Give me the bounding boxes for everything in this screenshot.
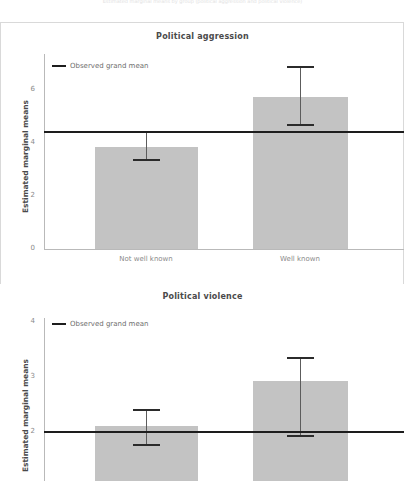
y-tick-label-4: 4 (15, 138, 35, 146)
x-tick-label-well-known: Well known (250, 255, 350, 263)
error-bar-cap-top-well-known-2 (287, 357, 314, 359)
legend-label-2: Observed grand mean (70, 320, 148, 328)
legend-label: Observed grand mean (70, 62, 148, 70)
y-axis-line-2 (44, 318, 45, 481)
y-tick-label-2-panel2: 2 (15, 427, 35, 435)
error-bar-cap-top-not-well-known-2 (133, 409, 160, 411)
top-caption: Estimated marginal means by group (polit… (0, 0, 405, 12)
chart-panel-political-violence: Political violence Estimated marginal me… (0, 286, 405, 481)
error-bar-cap-bottom-not-well-known (133, 159, 160, 161)
grand-mean-line-2 (44, 431, 404, 433)
grand-mean-line (44, 131, 404, 133)
bar-not-well-known (95, 147, 198, 249)
figure-page: Estimated marginal means by group (polit… (0, 0, 405, 481)
y-axis-label-2: Estimated marginal means (21, 346, 30, 481)
y-tick-label-6: 6 (15, 85, 35, 93)
error-bar-cap-top-well-known (287, 66, 314, 68)
error-bar-line-well-known-2 (300, 358, 301, 436)
legend-line-swatch-icon-2 (52, 323, 66, 326)
y-axis-line (44, 54, 45, 250)
x-tick-label-not-well-known: Not well known (96, 255, 196, 263)
legend-2: Observed grand mean (52, 320, 148, 328)
error-bar-line-well-known (300, 67, 301, 125)
error-bar-line-not-well-known (146, 132, 147, 160)
error-bar-line-not-well-known-2 (146, 410, 147, 445)
error-bar-cap-bottom-well-known (287, 124, 314, 126)
legend: Observed grand mean (52, 62, 148, 70)
panel-title-2: Political violence (0, 292, 405, 301)
y-tick-label-2: 2 (15, 191, 35, 199)
chart-panel-political-aggression: Political aggression Estimated marginal … (0, 22, 405, 284)
y-axis-label: Estimated marginal means (21, 87, 30, 227)
y-tick-label-0: 0 (15, 244, 35, 252)
y-tick-label-3-panel2: 3 (15, 372, 35, 380)
legend-line-swatch-icon (52, 65, 66, 68)
x-axis-line (44, 249, 404, 250)
error-bar-cap-bottom-not-well-known-2 (133, 444, 160, 446)
error-bar-cap-bottom-well-known-2 (287, 435, 314, 437)
top-caption-text: Estimated marginal means by group (polit… (0, 0, 405, 7)
y-tick-label-4-panel2: 4 (15, 317, 35, 325)
panel-title: Political aggression (0, 32, 405, 41)
